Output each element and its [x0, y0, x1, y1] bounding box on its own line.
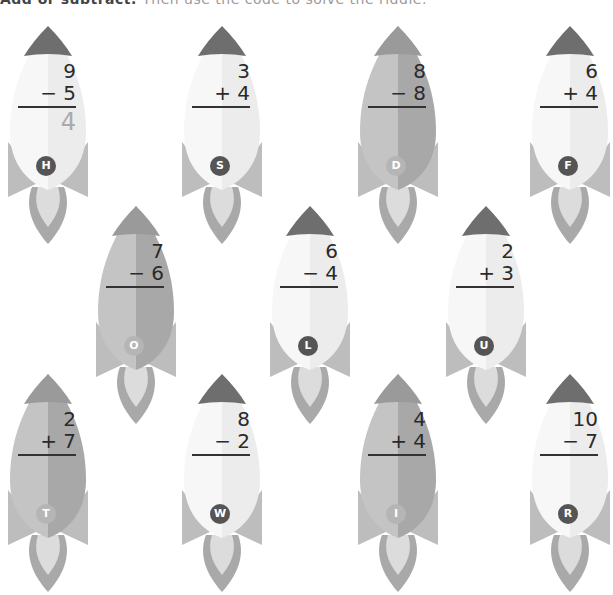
math-problem: 8− 8 — [366, 60, 426, 108]
operation: − 6 — [106, 262, 164, 288]
top-number: 6 — [278, 240, 338, 262]
top-number: 7 — [104, 240, 164, 262]
rocket-graphic — [172, 22, 272, 247]
letter-badge: S — [210, 156, 230, 176]
math-problem: 10− 7 — [538, 408, 598, 456]
letter-badge: L — [298, 336, 318, 356]
operation: − 8 — [368, 82, 426, 108]
math-problem: 6+ 4 — [538, 60, 598, 108]
math-problem: 2+ 3 — [454, 240, 514, 288]
letter-badge: U — [474, 336, 494, 356]
instructions-bold: Add or subtract. — [0, 0, 137, 7]
rocket-s: 3+ 4S — [172, 22, 272, 247]
nose-cone — [112, 206, 160, 236]
math-problem: 3+ 4 — [190, 60, 250, 108]
rocket-l: 6− 4L — [260, 202, 360, 427]
rocket-o: 7− 6O — [86, 202, 186, 427]
math-problem: 2+ 7 — [16, 408, 76, 456]
operation: − 7 — [540, 430, 598, 456]
rocket-w: 8− 2W — [172, 370, 272, 595]
instructions-rest: Then use the code to solve the riddle. — [142, 0, 427, 7]
top-number: 9 — [16, 60, 76, 82]
letter-badge: F — [558, 156, 578, 176]
top-number: 2 — [16, 408, 76, 430]
letter-badge: H — [36, 156, 56, 176]
rocket-r: 10− 7R — [520, 370, 613, 595]
letter-badge: I — [386, 504, 406, 524]
letter-badge: R — [558, 504, 578, 524]
operation: − 5 — [18, 82, 76, 108]
nose-cone — [198, 26, 246, 56]
math-problem: 7− 6 — [104, 240, 164, 288]
letter-badge: D — [386, 156, 406, 176]
nose-cone — [24, 374, 72, 404]
top-number: 8 — [190, 408, 250, 430]
rocket-graphic — [0, 370, 98, 595]
nose-cone — [374, 374, 422, 404]
rocket-d: 8− 8D — [348, 22, 448, 247]
rocket-graphic — [86, 202, 186, 427]
operation: − 2 — [192, 430, 250, 456]
operation: + 3 — [456, 262, 514, 288]
nose-cone — [198, 374, 246, 404]
rocket-graphic — [520, 370, 613, 595]
operation: + 4 — [540, 82, 598, 108]
top-number: 3 — [190, 60, 250, 82]
operation: + 7 — [18, 430, 76, 456]
top-number: 2 — [454, 240, 514, 262]
nose-cone — [462, 206, 510, 236]
top-number: 8 — [366, 60, 426, 82]
math-problem: 8− 2 — [190, 408, 250, 456]
rocket-graphic — [348, 370, 448, 595]
operation: − 4 — [280, 262, 338, 288]
math-problem: 6− 4 — [278, 240, 338, 288]
top-number: 6 — [538, 60, 598, 82]
rocket-graphic — [260, 202, 360, 427]
letter-badge: T — [36, 504, 56, 524]
nose-cone — [286, 206, 334, 236]
letter-badge: O — [124, 336, 144, 356]
top-number: 4 — [366, 408, 426, 430]
rocket-t: 2+ 7T — [0, 370, 98, 595]
rocket-i: 4+ 4I — [348, 370, 448, 595]
nose-cone — [546, 26, 594, 56]
operation: + 4 — [192, 82, 250, 108]
rocket-graphic — [172, 370, 272, 595]
nose-cone — [546, 374, 594, 404]
letter-badge: W — [210, 504, 230, 524]
rocket-h: 9− 54H — [0, 22, 98, 247]
math-problem: 4+ 4 — [366, 408, 426, 456]
nose-cone — [374, 26, 422, 56]
operation: + 4 — [368, 430, 426, 456]
nose-cone — [24, 26, 72, 56]
math-problem: 9− 54 — [16, 60, 76, 136]
top-number: 10 — [538, 408, 598, 430]
answer-field[interactable]: 4 — [16, 108, 76, 136]
rocket-graphic — [348, 22, 448, 247]
instructions: Add or subtract. Then use the code to so… — [0, 0, 427, 7]
